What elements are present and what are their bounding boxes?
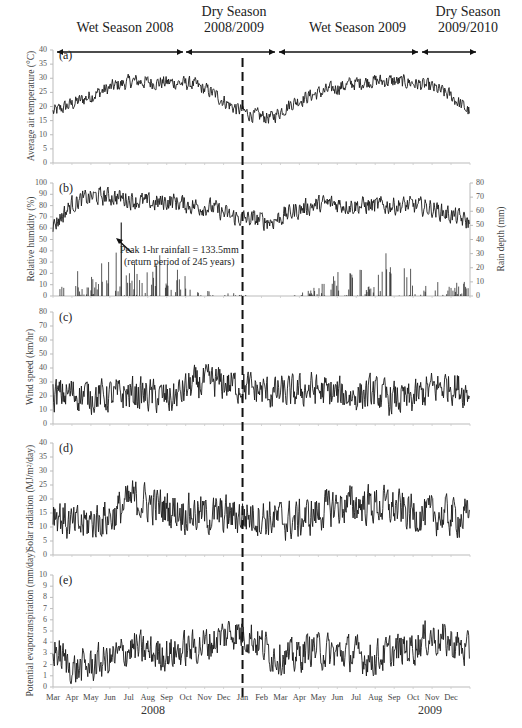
peak-rainfall-annotation: Peak 1-hr rainfall = 133.5mm (return per… [120, 244, 239, 268]
arrow-head-right [470, 49, 476, 55]
panel-label: (b) [59, 181, 73, 196]
y-tick-label-right: 20 [476, 263, 492, 272]
arrow-head-left [279, 49, 285, 55]
y-axis-label: Wind speed (km/hr) [25, 301, 35, 433]
data-line [53, 74, 469, 123]
y-tick-label-right: 40 [476, 235, 492, 244]
y-axis-label: Solar radiation (MJ/m²/day) [25, 432, 35, 564]
season-label-wet-2008: Wet Season 2008 [60, 20, 190, 36]
year-label-2009: 2009 [418, 703, 442, 718]
data-line [53, 621, 469, 684]
climate-figure [0, 0, 522, 728]
y-axis-label: Potential evapotranspiration (mm/day) [25, 565, 36, 697]
y-axis-label-right: Rain depth (mm) [495, 182, 505, 295]
arrow-head-left [186, 49, 192, 55]
data-line [53, 364, 469, 415]
arrow-head-right [177, 49, 183, 55]
data-line [53, 481, 469, 541]
y-axis-label: Average air temperature (°C) [25, 39, 35, 172]
annotation-line: Peak 1-hr rainfall = 133.5mm [120, 244, 239, 256]
season-label-dry-2008-2009: Dry Season 2008/2009 [184, 4, 284, 36]
arrow-head-right [269, 49, 275, 55]
panel-label: (d) [59, 441, 73, 456]
season-text: 2008/2009 [184, 20, 284, 36]
arrow-head-left [422, 49, 428, 55]
y-tick-label-right: 60 [476, 206, 492, 215]
y-axis-label: Relative humidity (%) [25, 172, 35, 305]
y-tick-label-right: 10 [476, 277, 492, 286]
x-tick-label-month: Dec [439, 692, 463, 702]
y-tick-label-right: 50 [476, 220, 492, 229]
season-label-dry-2009-2010: Dry Season 2009/2010 [418, 4, 518, 36]
season-text: Dry Season [418, 4, 518, 20]
season-text: Dry Season [184, 4, 284, 20]
y-tick-label-right: 70 [476, 192, 492, 201]
y-tick-label-right: 0 [476, 291, 492, 300]
annotation-line: (return period of 245 years) [120, 256, 239, 268]
season-label-wet-2009: Wet Season 2009 [295, 20, 420, 36]
arrow-head-right [412, 49, 418, 55]
y-tick-label-right: 30 [476, 249, 492, 258]
panel-label: (e) [59, 573, 72, 588]
y-tick-label-right: 80 [476, 178, 492, 187]
season-text: Wet Season 2008 [77, 20, 174, 35]
panel-label: (a) [59, 48, 72, 63]
panel-label: (c) [59, 310, 72, 325]
season-text: Wet Season 2009 [309, 20, 406, 35]
season-text: 2009/2010 [418, 20, 518, 36]
data-line [53, 187, 469, 232]
year-label-2008: 2008 [141, 703, 165, 718]
